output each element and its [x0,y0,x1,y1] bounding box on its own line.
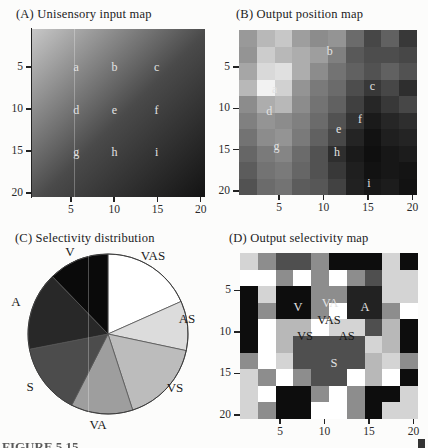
map-cell-VA [311,253,329,270]
map-cell [275,47,293,64]
map-cell-V [382,386,400,403]
y-axis-tick-label: 10 [214,326,231,338]
panel-b-title: (B) Output position map [236,7,363,22]
map-cell-AS [258,286,276,303]
y-axis-tick-label: 15 [0,145,23,157]
map-cell-AS [400,386,418,403]
map-cell-S [293,253,311,270]
map-cell-V [400,319,418,336]
x-axis-tick [70,197,72,202]
y-axis-tick-label: 5 [0,61,23,73]
x-axis-tick-label: 5 [264,202,294,214]
map-cell-VS [382,336,400,353]
map-cell [239,47,257,64]
map-cell-VA [276,270,294,287]
map-cell-VAS [329,402,347,419]
y-axis-tick [26,108,32,110]
map-cell-VAS [293,270,311,287]
map-cell [381,129,399,146]
map-cell [292,162,310,179]
map-cell [364,63,382,80]
map-marker-h: h [112,146,118,158]
caption-end-marker [418,439,425,448]
y-axis-tick-label: 20 [214,409,231,421]
map-cell [292,179,310,196]
map-cell [310,162,328,179]
map-cell [381,113,399,130]
map-cell [328,162,346,179]
map-cell-VS [276,319,294,336]
map-cell [328,80,346,97]
y-axis-tick-label: 15 [214,144,230,156]
map-cell-VA [347,270,365,287]
map-marker-d: d [73,104,79,116]
map-cell [346,96,364,113]
x-axis-tick-label: 10 [99,204,129,216]
map-cell [381,30,399,47]
x-axis-tick-label: 20 [186,204,216,216]
x-axis-tick-label: 10 [309,202,339,214]
map-cell [399,30,417,47]
map-cell [310,80,328,97]
pie-label-A: A [11,295,20,308]
map-cell-AS [382,270,400,287]
map-cell-AS [400,286,418,303]
map-cell [364,129,382,146]
map-cell-V [400,253,418,270]
map-cell-VA [240,353,258,370]
y-axis-line [31,28,33,198]
map-cell-AS [276,353,294,370]
map-cell [275,63,293,80]
map-cell-S [311,353,329,370]
scan-artifact-line [88,256,89,414]
map-marker-i: i [367,177,370,189]
map-cell [275,179,293,196]
map-marker-a: a [74,61,79,73]
map-cell-AS [240,253,258,270]
map-cell-V [276,286,294,303]
map-cell-VAS [258,386,276,403]
map-cell [381,146,399,163]
map-cell [292,146,310,163]
map-cell [381,80,399,97]
map-cell-V [240,286,258,303]
panel-output-selectivity-map: (D) Output selectivity map VVAAVASVSASS … [214,224,428,448]
pie-label-VS: VS [167,381,184,394]
map-cell-VAS [329,386,347,403]
panel-selectivity-distribution: (C) Selectivity distribution VVASASVSVAS… [0,224,214,448]
map-cell [399,96,417,113]
map-cell [292,96,310,113]
map-marker-c: c [154,61,159,73]
map-cell [239,129,257,146]
map-cell [346,47,364,64]
y-axis-tick [233,149,239,151]
map-cell [364,113,382,130]
map-marker-f: f [358,113,362,125]
y-axis-tick-label: 5 [214,284,231,296]
map-cell-VA [311,386,329,403]
map-cell [346,63,364,80]
map-cell [310,63,328,80]
panel-output-position-map: (B) Output position map abcdefghi 510152… [214,0,428,224]
map-cell-VAS [258,353,276,370]
panel-d-title: (D) Output selectivity map [229,231,369,246]
y-axis-tick [26,150,32,152]
map-cell [275,113,293,130]
map-cell-VS [276,336,294,353]
map-cell-S [329,369,347,386]
output-position-heatmap: abcdefghi [239,30,417,195]
map-cell-AS [382,286,400,303]
map-cell [399,146,417,163]
y-axis-tick [26,192,32,194]
map-cell-V [240,319,258,336]
map-cell [381,179,399,196]
map-cell-AS [240,386,258,403]
map-cell-VAS [347,369,365,386]
map-cell-V [293,402,311,419]
y-axis-tick-label: 10 [0,103,23,115]
map-cell [381,47,399,64]
map-cell [328,63,346,80]
map-cell [328,179,346,196]
map-cell [275,162,293,179]
map-cell-VAS [276,369,294,386]
